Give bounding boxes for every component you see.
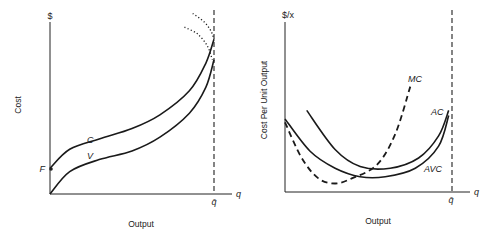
series-label-mc: MC [408, 74, 422, 84]
total-cost-chart: $ q q̄ Output Cost F CV [13, 10, 241, 229]
series-label-v: V [87, 151, 94, 161]
y-axis-label: Cost Per Unit Output [259, 60, 269, 139]
series-label-avc: AVC [423, 164, 443, 174]
x-axis-label: Output [128, 219, 154, 229]
series-line-v [50, 60, 214, 194]
series-line-c-extension [193, 13, 214, 39]
y-axis-label: Cost [13, 96, 23, 114]
series-line-v-extension [185, 27, 213, 60]
unit-cost-chart: $/x q q̄ Output Cost Per Unit Output ACA… [259, 10, 479, 226]
capacity-label: q̄ [448, 195, 453, 205]
x-axis-symbol: q [236, 189, 241, 199]
fixed-cost-label: F [40, 164, 46, 174]
series-line-mc [285, 87, 410, 184]
capacity-label: q̄ [211, 197, 216, 207]
series-line-c [50, 39, 214, 168]
y-unit-label: $ [47, 11, 52, 21]
series-label-c: C [87, 135, 94, 145]
x-axis-symbol: q [474, 187, 479, 197]
y-unit-label: $/x [282, 10, 295, 20]
series-label-ac: AC [430, 107, 444, 117]
x-axis-label: Output [365, 216, 391, 226]
cost-curves-figure: $ q q̄ Output Cost F CV $/x q q̄ Output … [0, 0, 491, 240]
